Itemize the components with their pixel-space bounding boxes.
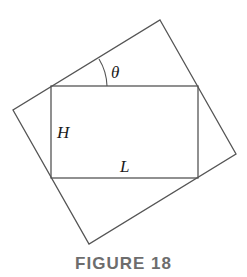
- angle-label-theta: θ: [111, 63, 119, 82]
- angle-arc: [99, 59, 107, 86]
- figure-diagram: θ H L: [0, 0, 247, 277]
- figure-caption: FIGURE 18: [0, 254, 247, 274]
- length-label: L: [119, 157, 129, 176]
- outer-rectangle: [13, 20, 236, 244]
- height-label: H: [56, 123, 71, 142]
